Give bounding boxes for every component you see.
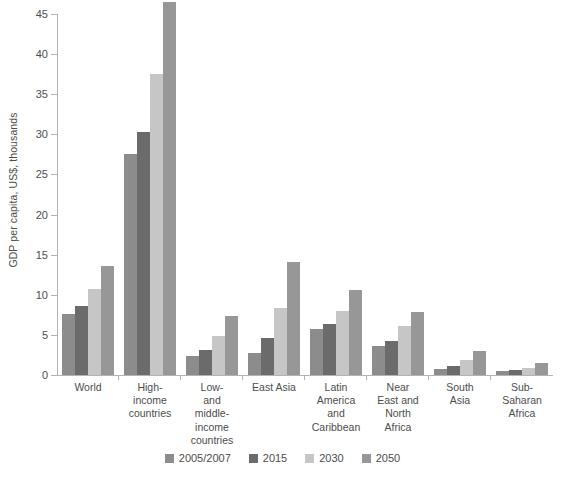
x-axis-tick-mark <box>304 375 305 380</box>
x-axis-category-label: East Asia <box>243 381 305 447</box>
y-axis-tick-label: 20 <box>36 209 48 221</box>
bar-group <box>367 14 429 375</box>
bar <box>473 351 486 375</box>
y-axis-tick-label: 30 <box>36 128 48 140</box>
bar-group-bars <box>119 14 181 375</box>
x-axis-category-label-line: middle- <box>182 407 242 420</box>
x-axis-category-label: Low-andmiddle-incomecountries <box>181 381 243 447</box>
y-axis-tick-label: 10 <box>36 289 48 301</box>
legend-item[interactable]: 2005/2007 <box>165 452 231 464</box>
x-axis-tick-mark <box>242 375 243 380</box>
bar <box>137 132 150 375</box>
bar-group <box>305 14 367 375</box>
legend-item[interactable]: 2030 <box>305 452 343 464</box>
x-axis-tick-mark <box>180 375 181 380</box>
legend-swatch-icon <box>362 454 371 463</box>
y-axis-tick-mark <box>51 375 57 376</box>
bar-group-bars <box>367 14 429 375</box>
x-axis-category-label-line: and <box>306 407 366 420</box>
bar-group <box>181 14 243 375</box>
bar <box>150 74 163 375</box>
x-axis-category-label: High-incomecountries <box>119 381 181 447</box>
bar <box>336 311 349 375</box>
x-axis-category-label-line: and <box>182 394 242 407</box>
y-axis-title-text: GDP per capita, US$, thousands <box>7 112 19 267</box>
bar-group-bars <box>491 14 553 375</box>
legend-item[interactable]: 2015 <box>249 452 287 464</box>
bar <box>323 324 336 375</box>
bar <box>411 312 424 375</box>
bar <box>522 368 535 375</box>
bar <box>75 306 88 375</box>
x-axis-category-label-line: Latin <box>306 381 366 394</box>
bar <box>398 326 411 375</box>
bar <box>274 308 287 375</box>
bar-group-bars <box>181 14 243 375</box>
x-axis-category-label-line: countries <box>182 434 242 447</box>
legend-item-label: 2050 <box>376 452 400 464</box>
y-axis-tick-label: 35 <box>36 88 48 100</box>
bar <box>287 262 300 375</box>
bar <box>509 370 522 375</box>
legend-swatch-icon <box>249 454 258 463</box>
x-axis-category-label-line: Caribbean <box>306 421 366 434</box>
x-axis-category-label-line: High- <box>120 381 180 394</box>
x-axis-category-label-line: Asia <box>430 394 490 407</box>
bar <box>434 369 447 375</box>
chart-legend: 2005/2007201520302050 <box>0 452 565 464</box>
x-axis-category-label: Sub-SaharanAfrica <box>491 381 553 447</box>
x-axis-category-label-line: countries <box>120 407 180 420</box>
y-axis-tick-label: 0 <box>42 369 48 381</box>
bar-group-bars <box>243 14 305 375</box>
legend-item-label: 2015 <box>263 452 287 464</box>
y-axis-tick-label: 15 <box>36 249 48 261</box>
bar <box>186 356 199 375</box>
x-axis-tick-mark <box>366 375 367 380</box>
bar <box>496 371 509 375</box>
y-axis-tick-label: 5 <box>42 329 48 341</box>
bar <box>261 338 274 375</box>
x-axis-category-label: World <box>57 381 119 447</box>
y-axis-tick-label: 25 <box>36 168 48 180</box>
y-axis-title: GDP per capita, US$, thousands <box>0 0 26 380</box>
bar-chart: GDP per capita, US$, thousands 051015202… <box>0 0 565 481</box>
x-axis-tick-mark <box>118 375 119 380</box>
x-axis-tick-mark <box>428 375 429 380</box>
x-axis-tick-mark <box>490 375 491 380</box>
x-axis-category-label-line: Africa <box>368 421 428 434</box>
legend-item-label: 2030 <box>319 452 343 464</box>
x-axis-category-label-line: East Asia <box>244 381 304 394</box>
legend-item[interactable]: 2050 <box>362 452 400 464</box>
x-axis-category-label-line: income <box>120 394 180 407</box>
x-axis-category-label: LatinAmericaandCaribbean <box>305 381 367 447</box>
x-axis-category-label-line: North <box>368 407 428 420</box>
bar-group-bars <box>305 14 367 375</box>
x-axis-category-label-line: South <box>430 381 490 394</box>
bar <box>225 316 238 375</box>
bar <box>460 360 473 375</box>
y-axis-tick-label: 45 <box>36 8 48 20</box>
legend-item-label: 2005/2007 <box>179 452 231 464</box>
x-axis-category-label: NearEast andNorthAfrica <box>367 381 429 447</box>
bar <box>199 350 212 375</box>
x-axis-category-labels: WorldHigh-incomecountriesLow-andmiddle-i… <box>57 381 553 447</box>
y-axis-tick: 0 <box>57 375 58 376</box>
legend-swatch-icon <box>305 454 314 463</box>
bar <box>310 329 323 375</box>
bar-group <box>243 14 305 375</box>
bar <box>372 346 385 375</box>
x-axis-category-label-line: World <box>58 381 118 394</box>
x-axis-category-label-line: America <box>306 394 366 407</box>
x-axis-category-label-line: Low- <box>182 381 242 394</box>
bar <box>248 353 261 375</box>
bar-group-bars <box>429 14 491 375</box>
bar <box>535 363 548 375</box>
x-axis-category-label-line: Africa <box>492 407 552 420</box>
x-axis-line <box>57 375 553 376</box>
bar <box>124 154 137 375</box>
bar <box>62 314 75 375</box>
x-axis-category-label: SouthAsia <box>429 381 491 447</box>
x-axis-category-label-line: Saharan <box>492 394 552 407</box>
bar <box>447 366 460 375</box>
bar <box>349 290 362 375</box>
